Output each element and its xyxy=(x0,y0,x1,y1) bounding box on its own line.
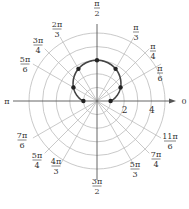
angle-numerator: 5π xyxy=(130,160,140,169)
angle-label: 7π6 xyxy=(17,131,27,150)
angle-numerator: π xyxy=(133,23,138,32)
angle-label: π xyxy=(4,97,9,106)
angle-denominator: 2 xyxy=(94,187,99,196)
angle-label: 11π6 xyxy=(162,132,177,151)
angle-denominator: 6 xyxy=(22,65,27,74)
angle-label: 5π4 xyxy=(32,151,42,170)
angle-label-text: π xyxy=(4,97,9,106)
angle-denominator: 3 xyxy=(53,167,58,176)
angle-numerator: π xyxy=(157,64,162,73)
angle-label: π6 xyxy=(157,64,163,83)
angle-label: 5π6 xyxy=(20,55,30,74)
angle-numerator: 4π xyxy=(51,157,61,166)
polar-plot: 0π6π4π3π22π33π45π6π7π65π44π33π25π37π411π… xyxy=(0,0,189,209)
angle-label: 0 xyxy=(181,97,186,106)
angle-denominator: 3 xyxy=(54,30,59,39)
angle-numerator: π xyxy=(150,42,155,51)
data-point xyxy=(71,85,75,89)
angle-numerator: 3π xyxy=(92,177,102,186)
angle-label: 2π3 xyxy=(52,20,62,39)
angle-numerator: 11π xyxy=(162,132,177,141)
angle-denominator: 3 xyxy=(132,170,137,179)
angle-label: 3π4 xyxy=(33,36,43,55)
angle-label: π3 xyxy=(133,23,139,42)
data-point xyxy=(76,67,80,71)
data-point xyxy=(113,67,117,71)
angle-numerator: 7π xyxy=(17,131,27,140)
angle-label: 7π4 xyxy=(151,150,161,169)
angle-numerator: 5π xyxy=(32,151,42,160)
angle-label: 4π3 xyxy=(51,157,61,176)
angle-denominator: 4 xyxy=(150,52,155,61)
angle-denominator: 2 xyxy=(94,9,99,18)
arrow-right-icon xyxy=(169,99,176,104)
data-point xyxy=(81,99,85,103)
angle-label: 3π2 xyxy=(92,177,102,196)
angle-numerator: π xyxy=(94,0,99,8)
angle-numerator: 2π xyxy=(52,20,62,29)
angle-label: π2 xyxy=(94,0,100,18)
angle-denominator: 4 xyxy=(153,160,158,169)
radius-label: 2 xyxy=(122,105,128,115)
angle-denominator: 6 xyxy=(157,74,162,83)
angle-numerator: 7π xyxy=(151,150,161,159)
data-point xyxy=(95,58,99,62)
angle-label-text: 0 xyxy=(181,97,186,106)
radius-labels: 24 xyxy=(122,105,155,115)
data-point xyxy=(108,99,112,103)
angle-denominator: 6 xyxy=(19,141,24,150)
angle-label: π4 xyxy=(150,42,156,61)
radius-label: 4 xyxy=(149,105,155,115)
angle-numerator: 5π xyxy=(20,55,30,64)
angle-denominator: 4 xyxy=(35,46,40,55)
angle-denominator: 3 xyxy=(133,33,138,42)
angle-label: 5π3 xyxy=(130,160,140,179)
angle-denominator: 6 xyxy=(167,142,172,151)
angle-denominator: 4 xyxy=(34,161,39,170)
angle-numerator: 3π xyxy=(33,36,43,45)
data-point xyxy=(118,85,122,89)
